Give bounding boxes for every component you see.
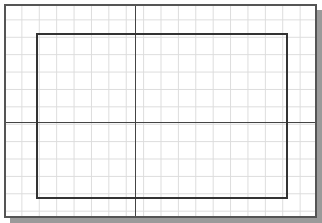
drawing-sheet [4, 4, 317, 218]
inner-rectangle [36, 33, 288, 199]
